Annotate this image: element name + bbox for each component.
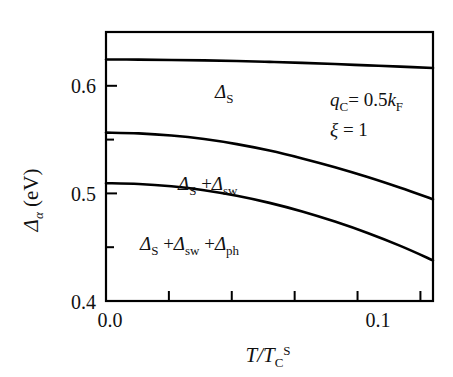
curve2-plus: + [201, 173, 212, 194]
curve3-delta2: Δ [173, 233, 185, 254]
curve3-delta1: Δ [139, 233, 151, 254]
curve1-subscript: S [226, 91, 233, 106]
y-axis-delta-symbol: Δ [19, 219, 43, 232]
annot-q-equals: = 0.5 [348, 89, 387, 110]
annot-q-symbol: q [330, 89, 340, 110]
curve3-sub1: S [151, 243, 158, 258]
curve3-delta3: Δ [214, 233, 226, 254]
chart-figure: 0.6 0.5 0.4 0.0 0.1 Δα (eV) T/TCS ΔS ΔS … [0, 0, 453, 377]
y-tick-label-2: 0.4 [71, 291, 96, 313]
y-axis-title: Δα (eV) [19, 169, 46, 233]
y-axis-unit: (eV) [19, 169, 43, 207]
svg-text:Δα (eV): Δα (eV) [19, 169, 46, 233]
x-tick-label-0: 0.0 [98, 309, 123, 331]
x-axis-denominator-superscript: S [283, 343, 290, 358]
curve3-plus1: + [163, 233, 174, 254]
annot-k-subscript: F [396, 99, 403, 114]
curve3-sub3: ph [226, 243, 240, 258]
annotation-xi: ξ = 1 [330, 119, 368, 140]
chart-svg: 0.6 0.5 0.4 0.0 0.1 Δα (eV) T/TCS ΔS ΔS … [0, 0, 453, 377]
y-tick-label-0: 0.6 [71, 75, 96, 97]
curve2-sub2: sw [223, 183, 238, 198]
curve2-sub1: S [189, 183, 196, 198]
x-tick-label-1: 0.1 [366, 309, 391, 331]
y-tick-label-1: 0.5 [71, 183, 96, 205]
annot-q-subscript: C [340, 99, 349, 114]
curve3-sub2: sw [185, 243, 200, 258]
curve1-delta: Δ [214, 81, 226, 102]
annot-xi-equals: = 1 [343, 119, 368, 140]
curve2-delta2: Δ [211, 173, 223, 194]
curve2-delta1: Δ [177, 173, 189, 194]
curve3-plus2: + [204, 233, 215, 254]
x-axis-denominator-subscript: C [275, 355, 284, 370]
